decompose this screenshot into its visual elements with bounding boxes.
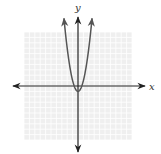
x-axis-label: x: [149, 81, 155, 92]
graph: x y: [0, 0, 161, 154]
y-axis-label: y: [74, 2, 81, 13]
